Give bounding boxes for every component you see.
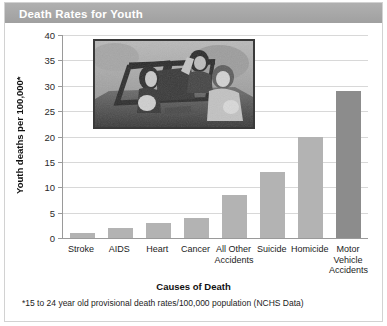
y-axis-tick <box>58 213 63 214</box>
bar-homicide <box>298 137 323 239</box>
y-axis-tick <box>58 187 63 188</box>
x-axis-tick-label: Suicide <box>253 244 291 255</box>
x-axis-tick-label: Stroke <box>62 244 100 255</box>
y-axis-tick-label: 30 <box>44 80 55 91</box>
y-axis-tick-label: 35 <box>44 55 55 66</box>
y-axis-tick-label: 40 <box>44 30 55 41</box>
y-axis-tick <box>58 35 63 36</box>
bar-suicide <box>260 172 285 238</box>
title-banner: Death Rates for Youth <box>5 3 382 23</box>
x-axis-tick-label: MotorVehicleAccidents <box>329 244 367 276</box>
y-axis-tick <box>58 238 63 239</box>
x-axis-tick-label: Homicide <box>291 244 329 255</box>
y-axis-tick <box>58 162 63 163</box>
y-axis-tick <box>58 137 63 138</box>
y-axis-tick <box>58 60 63 61</box>
y-axis-tick <box>58 111 63 112</box>
y-axis-title: Youth deaths per 100,000* <box>14 60 28 210</box>
death-rates-for-youth-figure: Death Rates for Youth Youth deaths per 1… <box>0 0 387 326</box>
y-axis-tick <box>58 86 63 87</box>
gridline <box>63 35 368 36</box>
y-axis-tick-label: 5 <box>50 207 55 218</box>
chart-footnote: *15 to 24 year old provisional death rat… <box>22 298 304 308</box>
y-axis-tick-label: 10 <box>44 182 55 193</box>
x-axis-tick-label: Cancer <box>176 244 214 255</box>
y-axis-tick-label: 0 <box>50 233 55 244</box>
x-axis-title: Causes of Death <box>0 281 387 292</box>
bar-all-other-accidents <box>222 195 247 238</box>
page-title: Death Rates for Youth <box>19 8 143 20</box>
bar-cancer <box>184 218 209 238</box>
y-axis-tick-label: 25 <box>44 106 55 117</box>
bar-aids <box>108 228 133 238</box>
x-axis-tick-label: All OtherAccidents <box>215 244 253 265</box>
teens-in-convertible-photo <box>93 39 255 129</box>
x-axis-tick-label: Heart <box>138 244 176 255</box>
bar-heart <box>146 223 171 238</box>
y-axis-tick-label: 15 <box>44 156 55 167</box>
y-axis-tick-label: 20 <box>44 131 55 142</box>
bar-motor-vehicle-accidents <box>336 91 361 238</box>
x-axis-tick-label: AIDS <box>100 244 138 255</box>
bar-stroke <box>70 233 95 238</box>
